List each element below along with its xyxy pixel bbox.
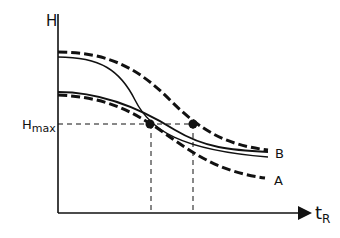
x-axis-label: tR [315, 202, 330, 226]
curve-label-b: B [275, 146, 284, 161]
curve-a-dashed [58, 95, 265, 178]
curve-upper-solid [58, 57, 268, 157]
hmax-label: Hmax [22, 117, 56, 135]
diagram-canvas: H Hmax B A tR [0, 0, 340, 238]
marker-a [146, 120, 155, 129]
curve-lower-solid [58, 92, 268, 152]
x-axis-arrow-icon [298, 206, 312, 220]
marker-b [189, 120, 198, 129]
y-axis-label: H [46, 12, 57, 30]
curve-b-dashed [58, 52, 268, 150]
curve-label-a: A [274, 173, 283, 188]
